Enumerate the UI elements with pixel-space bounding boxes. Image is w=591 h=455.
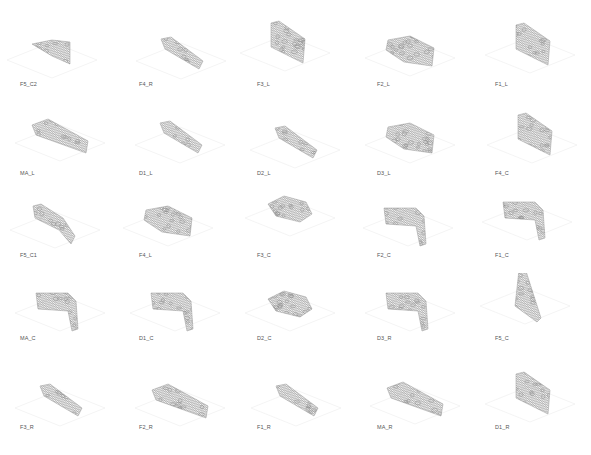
lattice-panel (236, 182, 354, 273)
lattice-panel (354, 273, 472, 364)
panel-caption: F1_L (495, 81, 508, 87)
lattice-wireframe-icon (0, 0, 118, 91)
lattice-wireframe-icon (472, 91, 590, 182)
lattice-wireframe-icon (118, 0, 236, 91)
panel-caption: F1_R (257, 424, 271, 430)
lattice-wireframe-icon (472, 273, 590, 364)
panel-caption: D1_C (139, 335, 153, 341)
lattice-wireframe-icon (472, 0, 590, 91)
panel-caption: MA_L (20, 170, 35, 176)
lattice-panel (0, 182, 118, 273)
lattice-panel (354, 364, 472, 455)
lattice-panel (472, 273, 590, 364)
panel-caption: D2_L (257, 170, 271, 176)
panel-caption: F3_R (20, 424, 34, 430)
lattice-wireframe-icon (0, 182, 118, 273)
lattice-wireframe-icon (354, 0, 472, 91)
lattice-panel (118, 273, 236, 364)
panel-caption: F1_C (495, 252, 509, 258)
lattice-wireframe-icon (118, 273, 236, 364)
lattice-wireframe-icon (354, 91, 472, 182)
panel-caption: F4_L (139, 252, 152, 258)
lattice-wireframe-icon (118, 364, 236, 455)
panel-caption: MA_R (377, 424, 393, 430)
panel-caption: D3_R (377, 335, 391, 341)
panel-caption: MA_C (20, 335, 36, 341)
lattice-panel (118, 91, 236, 182)
lattice-panel (0, 91, 118, 182)
panel-caption: F3_C (257, 252, 271, 258)
lattice-wireframe-icon (236, 0, 354, 91)
lattice-wireframe-icon (118, 91, 236, 182)
panel-caption: D1_R (495, 424, 509, 430)
lattice-wireframe-icon (236, 182, 354, 273)
lattice-panel (354, 182, 472, 273)
lattice-wireframe-icon (236, 364, 354, 455)
lattice-wireframe-icon (472, 364, 590, 455)
panel-caption: F2_C (377, 252, 391, 258)
panel-caption: F5_C2 (20, 81, 37, 87)
lattice-panel (472, 364, 590, 455)
panel-caption: F4_C (495, 170, 509, 176)
lattice-panel (0, 273, 118, 364)
lattice-figure-grid: F5_C2F4_RF3_LF2_LF1_LMA_LD1_LD2_LD3_LF4_… (0, 0, 591, 455)
lattice-panel (354, 0, 472, 91)
lattice-wireframe-icon (0, 364, 118, 455)
lattice-panel (472, 182, 590, 273)
panel-caption: F5_C1 (20, 252, 37, 258)
panel-caption: F3_L (257, 81, 270, 87)
lattice-panel (236, 0, 354, 91)
lattice-panel (354, 91, 472, 182)
lattice-panel (118, 182, 236, 273)
lattice-wireframe-icon (0, 273, 118, 364)
lattice-panel (472, 0, 590, 91)
lattice-panel (118, 0, 236, 91)
lattice-panel (0, 364, 118, 455)
lattice-wireframe-icon (118, 182, 236, 273)
panel-caption: F2_L (377, 81, 390, 87)
panel-caption: D3_L (377, 170, 391, 176)
panel-caption: F5_C (495, 335, 509, 341)
lattice-wireframe-icon (354, 364, 472, 455)
lattice-panel (236, 364, 354, 455)
lattice-wireframe-icon (0, 91, 118, 182)
lattice-wireframe-icon (354, 182, 472, 273)
lattice-panel (118, 364, 236, 455)
lattice-panel (472, 91, 590, 182)
lattice-panel (236, 273, 354, 364)
lattice-wireframe-icon (236, 91, 354, 182)
panel-caption: D1_L (139, 170, 153, 176)
panel-caption: F4_R (139, 81, 153, 87)
lattice-wireframe-icon (472, 182, 590, 273)
panel-caption: D2_C (257, 335, 271, 341)
lattice-wireframe-icon (354, 273, 472, 364)
lattice-panel (0, 0, 118, 91)
panel-caption: F2_R (139, 424, 153, 430)
lattice-wireframe-icon (236, 273, 354, 364)
lattice-panel (236, 91, 354, 182)
